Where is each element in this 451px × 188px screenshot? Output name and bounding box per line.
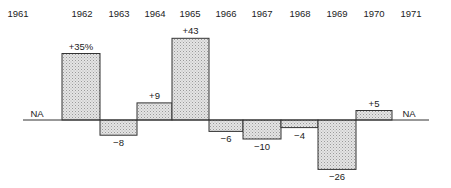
bar-1963	[100, 120, 137, 135]
year-label: 1962	[71, 8, 92, 19]
year-label: 1967	[251, 8, 272, 19]
value-label: +9	[149, 90, 160, 101]
na-label: NA	[402, 108, 416, 119]
bar-1967	[243, 120, 281, 139]
value-label: −4	[294, 130, 305, 141]
year-label: 1964	[144, 8, 165, 19]
value-label: −26	[329, 171, 345, 182]
year-label: 1969	[326, 8, 347, 19]
year-label: 1968	[289, 8, 310, 19]
year-label: 1965	[179, 8, 200, 19]
value-label: −6	[221, 133, 232, 144]
x-axis-year-labels: 1961196219631964196519661967196819691970…	[7, 8, 421, 19]
bar-1965	[172, 38, 209, 120]
bar-1969	[318, 120, 356, 169]
bar-1968	[281, 120, 318, 128]
year-label: 1963	[108, 8, 129, 19]
value-label: −8	[113, 137, 124, 148]
bar-1964	[137, 103, 172, 120]
year-label: 1970	[363, 8, 384, 19]
na-label: NA	[30, 108, 44, 119]
year-label: 1961	[7, 8, 28, 19]
year-label: 1971	[400, 8, 421, 19]
bar-1970	[356, 111, 392, 121]
bar-1966	[209, 120, 243, 131]
value-label: +5	[369, 98, 380, 109]
value-label: +43	[182, 25, 198, 36]
bar-1962	[62, 54, 100, 121]
bars	[62, 38, 392, 169]
bar-chart: 1961196219631964196519661967196819691970…	[0, 0, 451, 188]
value-label: +35%	[69, 41, 94, 52]
value-label: −10	[254, 141, 270, 152]
year-label: 1966	[215, 8, 236, 19]
